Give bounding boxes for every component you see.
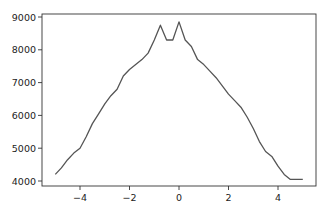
y-tick-label: 8000	[12, 44, 36, 55]
x-tick-label: 4	[275, 192, 281, 203]
y-tick-label: 7000	[12, 77, 36, 88]
y-tick-label: 6000	[12, 110, 36, 121]
x-tick-label: 0	[176, 192, 182, 203]
x-axis-ticks: −4−2024	[73, 186, 281, 203]
x-tick-label: 2	[225, 192, 231, 203]
y-tick-label: 5000	[12, 143, 36, 154]
y-tick-label: 9000	[12, 12, 36, 23]
line-chart: 400050006000700080009000 −4−2024	[0, 0, 327, 210]
y-tick-label: 4000	[12, 176, 36, 187]
x-tick-label: −2	[122, 192, 136, 203]
y-axis-ticks: 400050006000700080009000	[12, 12, 42, 187]
x-tick-label: −4	[73, 192, 87, 203]
